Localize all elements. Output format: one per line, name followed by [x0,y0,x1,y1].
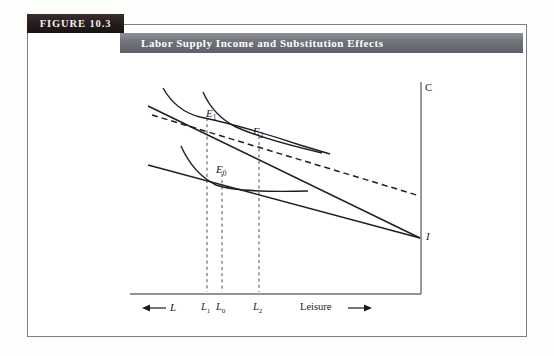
figure-plot-svg [0,0,554,356]
point-label-e2: E2 [253,125,263,140]
tick-label-l1: L1 [201,301,210,315]
axis-label-labor: L [170,301,176,313]
axis-label-leisure: Leisure [300,301,332,312]
leisure-left-arrow-head [142,305,150,312]
tick-label-l0-sub: 0 [222,307,226,315]
point-label-e1-sub: 1 [213,113,217,122]
tick-label-l1-sub: 1 [207,307,211,315]
axis-label-consumption: C [425,82,432,93]
tick-label-l2-sub: 2 [259,307,263,315]
budget-line-new [148,106,420,238]
point-label-e1-letter: E [206,107,213,119]
budget-line-original [148,165,420,238]
compensated-budget-line [152,115,420,196]
point-label-e0-sub: 0 [223,169,227,178]
point-label-e0-letter: E [216,163,223,175]
indifference-curve-u0-compensated [203,92,322,153]
figure-page: FIGURE 10.3 Labor Supply Income and Subs… [0,0,554,356]
point-label-e2-letter: E [253,125,260,137]
tick-label-l0: L0 [216,301,225,315]
point-label-e2-sub: 2 [260,131,264,140]
axis-label-endowment: I [426,230,430,242]
point-label-e1: E1 [206,107,216,122]
tick-label-l2: L2 [253,301,262,315]
indifference-curve-u1 [163,88,330,154]
point-label-e0: E0 [216,163,226,178]
leisure-right-arrow-head [364,305,372,312]
